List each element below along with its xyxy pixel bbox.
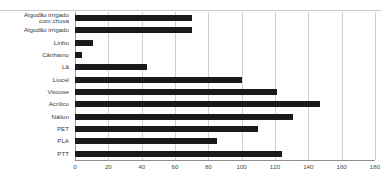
- bar: [75, 101, 320, 107]
- category-axis-labels: Algodão irrigado com chuvaAlgodão irriga…: [0, 12, 72, 160]
- bar: [75, 151, 282, 157]
- bar-row: [75, 135, 375, 147]
- category-label-row: Náilon: [0, 111, 72, 123]
- bar: [75, 138, 217, 144]
- bar-row: [75, 61, 375, 73]
- category-label-row: Cânhamo: [0, 49, 72, 61]
- x-axis-tick-labels: 020406080100120140160180: [0, 163, 381, 177]
- category-label: PET: [57, 126, 69, 132]
- bar: [75, 15, 192, 21]
- bar-row: [75, 49, 375, 61]
- x-tick-label: 60: [172, 163, 179, 170]
- bar-row: [75, 74, 375, 86]
- category-label-row: Algodão irrigado: [0, 24, 72, 36]
- category-label: Liocel: [53, 77, 69, 83]
- category-label-row: Lã: [0, 61, 72, 73]
- x-tick-label: 140: [303, 163, 313, 170]
- category-label-row: Viscose: [0, 86, 72, 98]
- category-label: Viscose: [47, 89, 69, 95]
- category-label-row: Acrílico: [0, 98, 72, 110]
- bar-row: [75, 24, 375, 36]
- x-tick-label: 120: [270, 163, 280, 170]
- x-tick-label: 100: [236, 163, 246, 170]
- bar-row: [75, 123, 375, 135]
- bar-row: [75, 148, 375, 160]
- category-label: Lã: [62, 64, 69, 70]
- bar-row: [75, 37, 375, 49]
- x-tick-label: 80: [205, 163, 212, 170]
- category-label-row: PET: [0, 123, 72, 135]
- bar: [75, 77, 242, 83]
- x-tick-label: 180: [370, 163, 380, 170]
- chart-page: Algodão irrigado com chuvaAlgodão irriga…: [0, 0, 381, 183]
- bar-row: [75, 86, 375, 98]
- category-label: Linho: [54, 40, 69, 46]
- gridline-180: [375, 12, 376, 160]
- category-label-row: PLA: [0, 135, 72, 147]
- bar-series: [75, 12, 375, 160]
- category-label: PLA: [57, 138, 69, 144]
- category-label: Acrílico: [49, 101, 69, 107]
- bar: [75, 114, 293, 120]
- x-tick-label: 0: [73, 163, 76, 170]
- bar: [75, 40, 93, 46]
- category-label-row: Algodão irrigado com chuva: [0, 12, 72, 24]
- category-label: Náilon: [51, 114, 69, 120]
- x-axis-line: [75, 160, 375, 161]
- bar: [75, 126, 258, 132]
- x-tick-label: 20: [105, 163, 112, 170]
- bar: [75, 64, 147, 70]
- bar-row: [75, 12, 375, 24]
- x-tick-label: 40: [138, 163, 145, 170]
- category-label: Cânhamo: [42, 52, 69, 58]
- plot-area: Algodão irrigado com chuvaAlgodão irriga…: [0, 12, 381, 162]
- category-label-row: Liocel: [0, 74, 72, 86]
- category-label-row: Linho: [0, 37, 72, 49]
- bar-row: [75, 98, 375, 110]
- category-label: Algodão irrigado: [24, 27, 69, 33]
- category-label: Algodão irrigado com chuva: [24, 12, 69, 25]
- bar: [75, 89, 277, 95]
- category-label-row: PTT: [0, 148, 72, 160]
- x-tick-label: 160: [336, 163, 346, 170]
- category-label: PTT: [57, 151, 69, 157]
- bar-row: [75, 111, 375, 123]
- bar: [75, 52, 82, 58]
- bar: [75, 27, 192, 33]
